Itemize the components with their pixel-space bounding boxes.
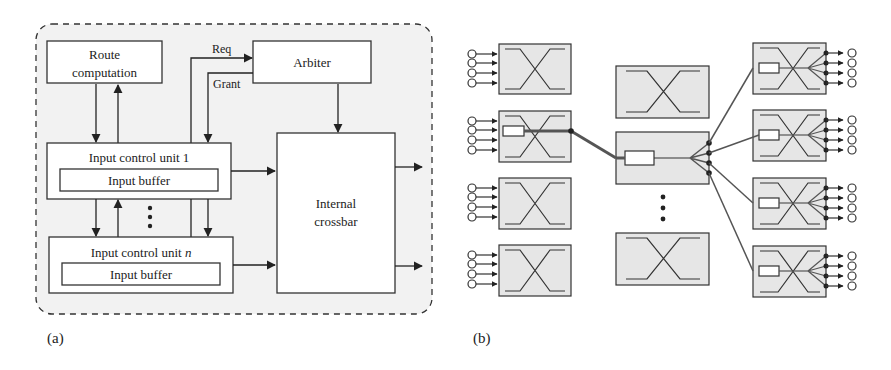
buffer-right-3 [759,198,779,208]
fanout-paths [709,68,759,271]
req-label: Req [212,42,231,56]
input-buffer-1-label: Input buffer [108,173,171,188]
right-switch-3 [753,178,826,229]
route-label-1: Route [89,47,120,62]
middle-switch-3 [616,233,709,285]
buffer-right-2 [759,130,779,140]
input-buffer-n-label: Input buffer [110,267,173,282]
arbiter-box: Arbiter [253,41,371,83]
panel-a: Route computation Arbiter Req Grant Inpu… [36,24,432,347]
panel-b: (b) [468,43,856,347]
buffer-right-1 [759,63,779,73]
left-inputs [468,50,497,288]
icu1-title: Input control unit 1 [89,150,190,165]
left-switch-3 [499,178,571,229]
arbiter-label: Arbiter [293,55,331,70]
input-control-unit-n: Input control unit n Input buffer [49,237,233,293]
left-switch-2 [499,111,571,162]
buffer-left-2 [503,126,524,136]
right-switch-4 [753,246,826,297]
right-outputs [824,49,857,290]
caption-a: (a) [47,330,64,347]
left-switch-1 [499,44,571,94]
middle-switch-2 [616,132,709,184]
vertical-ellipsis [148,206,152,228]
input-control-unit-1: Input control unit 1 Input buffer [47,143,231,199]
middle-switch-1 [616,66,709,118]
route-computation-box: Route computation [47,41,162,83]
internal-crossbar-box: Internal crossbar [277,133,395,293]
icun-title: Input control unit n [91,245,192,260]
buffer-right-4 [759,266,779,276]
route-path-left-to-middle [571,131,616,158]
buffer-middle-2 [625,151,654,165]
middle-ellipsis [661,195,666,222]
grant-label: Grant [213,77,241,91]
crossbar-label-1: Internal [316,196,357,211]
figure: Route computation Arbiter Req Grant Inpu… [0,0,891,370]
caption-b: (b) [473,330,491,347]
right-switch-2 [753,110,826,161]
right-switch-1 [753,43,826,94]
route-label-2: computation [72,65,137,80]
crossbar-label-2: crossbar [314,214,358,229]
left-switch-4 [499,245,571,296]
